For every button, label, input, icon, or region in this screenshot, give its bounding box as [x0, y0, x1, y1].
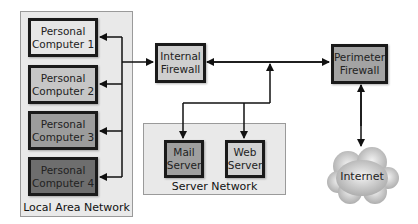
pc2-label: Personal Computer 2: [32, 72, 94, 98]
personal-computer-3: Personal Computer 3: [28, 111, 98, 150]
web-server: Web Server: [225, 140, 265, 178]
internal-firewall-label: Internal Firewall: [160, 50, 200, 76]
personal-computer-2: Personal Computer 2: [28, 65, 98, 104]
pc4-label: Personal Computer 4: [32, 164, 94, 190]
web-server-label: Web Server: [228, 146, 262, 172]
perimeter-firewall-label: Perimeter Firewall: [334, 51, 385, 77]
internet-label: Internet: [332, 170, 392, 183]
mail-server: Mail Server: [164, 140, 204, 178]
pc1-label: Personal Computer 1: [32, 25, 94, 51]
internal-firewall: Internal Firewall: [155, 43, 206, 83]
personal-computer-4: Personal Computer 4: [28, 157, 98, 196]
mail-server-label: Mail Server: [167, 146, 201, 172]
pc3-label: Personal Computer 3: [32, 118, 94, 144]
personal-computer-1: Personal Computer 1: [28, 18, 98, 57]
perimeter-firewall: Perimeter Firewall: [331, 44, 388, 84]
